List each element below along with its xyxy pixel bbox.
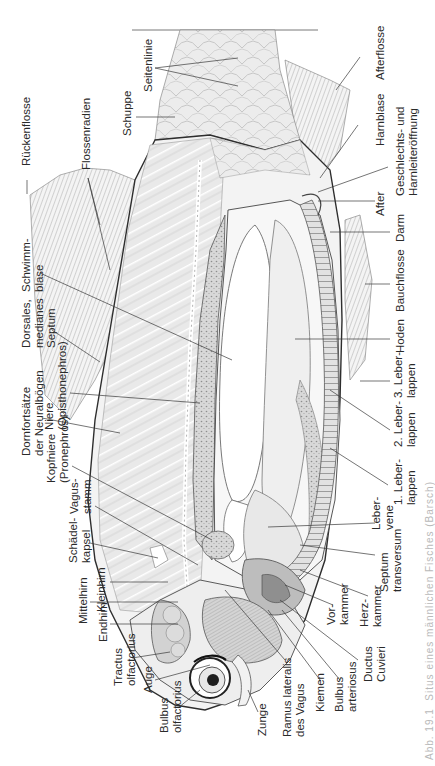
label-herzkammer: Herz- kammer — [358, 585, 383, 627]
forebrain-drawing — [171, 643, 185, 657]
label-bulbus-arteriosus: Bulbus arteriosus — [333, 662, 358, 713]
label-vorkammer: Vor- kammer — [325, 583, 350, 625]
label-rueckenflosse: Rückenflosse — [20, 97, 33, 166]
label-kopfniere: Kopfniere (Pronephros) — [45, 416, 70, 483]
label-mittelhirn: Mittelhirn — [77, 577, 90, 624]
label-schwimmblase: Schwimm- blase — [20, 238, 45, 292]
label-bulbus-olfactorius: Bulbus olfactorius — [158, 681, 183, 733]
cerebellum-drawing — [163, 606, 181, 624]
label-harnblase: Harnblase — [374, 94, 387, 146]
label-ramus-lateralis-des-vagus: Ramus lateralis des Vagus — [281, 658, 306, 737]
label-ductus-cuvieri: Ductus Cuvieri — [362, 646, 387, 682]
label-dornfortsaetze: Dornfortsätze der Neuralbögen — [20, 370, 45, 456]
label-darm: Darm — [394, 214, 407, 242]
label-auge: Auge — [142, 666, 155, 693]
label-geschlechts-harnleiteroeffnung: Geschlechts- und Harnleiteröffnung — [394, 107, 419, 197]
head-kidney-drawing — [202, 531, 234, 559]
figure-caption: Abb. 19.1 Situs eines männlichen Fisches… — [424, 481, 435, 760]
label-bauchflosse: Bauchflosse — [394, 249, 407, 312]
label-tractus-olfactorius: Tractus olfactorius — [112, 634, 137, 686]
label-seitenlinie: Seitenlinie — [142, 39, 155, 92]
label-flossenradien: Flossenradien — [80, 98, 93, 170]
label-leberlappen-1: 1. Leber- lappen — [392, 459, 417, 505]
label-kiemen: Kiemen — [314, 673, 327, 712]
label-septum-transversum: Septum transversum — [378, 529, 403, 592]
label-schuppe: Schuppe — [121, 91, 134, 136]
pelvic-fin-drawing — [345, 215, 372, 380]
pupil-drawing — [207, 674, 219, 686]
label-endhirn: Endhirn — [97, 602, 110, 642]
label-lebervene: Leber- vene — [370, 497, 395, 530]
label-schaedelkapsel: Schädel- kapsel — [67, 518, 92, 563]
midbrain-drawing — [166, 624, 184, 642]
label-zunge: Zunge — [256, 703, 269, 736]
label-hoden: Hoden — [394, 319, 407, 353]
label-leberlappen-2: 2. Leber- lappen — [392, 401, 417, 447]
label-after: After — [374, 192, 387, 216]
scaled-skin-drawing — [155, 30, 300, 150]
label-vagusstamm: Vagus- stamm — [68, 478, 93, 514]
label-afterflosse: Afterflosse — [374, 26, 387, 80]
label-leberlappen-3: 3. Leber- lappen — [392, 352, 417, 398]
